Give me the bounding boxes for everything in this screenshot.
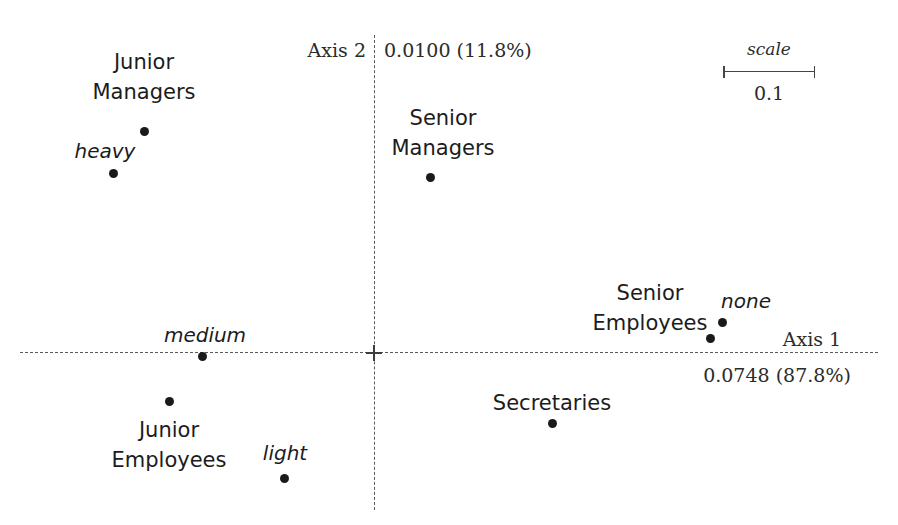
axis1-inertia-label: 0.0748 (87.8%) [703,365,851,386]
label-senior-managers-line1: Senior [410,107,477,130]
point-light [280,474,289,483]
vertical-axis-line [374,35,375,510]
point-senior-employees [706,334,715,343]
horizontal-axis-line [20,352,878,353]
scale-title-label: scale [747,40,791,58]
label-senior-managers-line2: Managers [392,137,495,160]
point-junior-employees [165,397,174,406]
correspondence-analysis-plot: Axis 2 0.0100 (11.8%) Axis 1 0.0748 (87.… [0,0,898,525]
axis1-name-label: Axis 1 [783,329,841,350]
label-junior-employees-line2: Employees [112,449,227,472]
point-heavy [109,169,118,178]
label-medium: medium [164,325,246,347]
label-junior-managers-line2: Managers [93,81,196,104]
scale-value-label: 0.1 [754,83,784,104]
label-heavy: heavy [75,141,136,163]
scale-bar [723,71,815,72]
point-secretaries [548,419,557,428]
axis2-inertia-label: 0.0100 (11.8%) [384,40,532,61]
axis2-name-label: Axis 2 [308,40,366,61]
label-senior-employees-line2: Employees [593,312,708,335]
point-senior-managers [426,173,435,182]
label-junior-employees-line1: Junior [139,419,199,442]
label-senior-employees-line1: Senior [617,282,684,305]
point-junior-managers [140,127,149,136]
label-secretaries: Secretaries [493,392,611,415]
label-junior-managers-line1: Junior [114,51,174,74]
label-light: light [263,443,307,465]
point-none [718,318,727,327]
point-medium [198,352,207,361]
label-none: none [721,291,771,313]
